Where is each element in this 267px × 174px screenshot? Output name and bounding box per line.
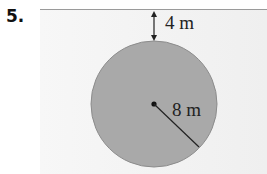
circle-diagram: 4 m 8 m xyxy=(0,0,267,174)
radius-label: 8 m xyxy=(172,99,201,120)
gap-label: 4 m xyxy=(165,12,194,33)
gap-arrow-icon xyxy=(151,11,157,41)
